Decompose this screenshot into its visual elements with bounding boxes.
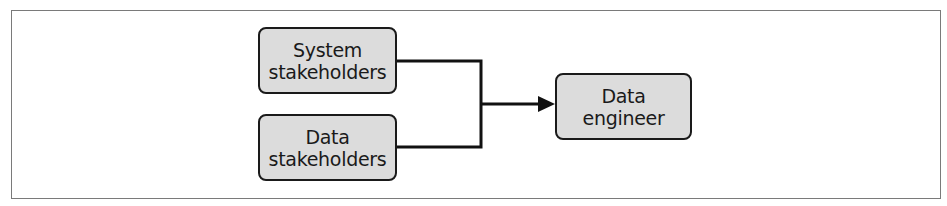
node-label-line: System	[293, 39, 362, 61]
node-label-line: Data	[305, 126, 349, 148]
node-data-engineer: Data engineer	[555, 73, 692, 140]
arrowhead-icon	[538, 96, 555, 112]
edge-system-stakeholders	[396, 61, 481, 147]
node-data-stakeholders: Data stakeholders	[258, 114, 397, 181]
connector-lines	[0, 0, 947, 206]
node-label-line: stakeholders	[269, 148, 387, 170]
node-label-line: Data	[601, 85, 645, 107]
node-label-line: engineer	[583, 107, 665, 129]
node-system-stakeholders: System stakeholders	[258, 27, 397, 94]
node-label-line: stakeholders	[269, 61, 387, 83]
